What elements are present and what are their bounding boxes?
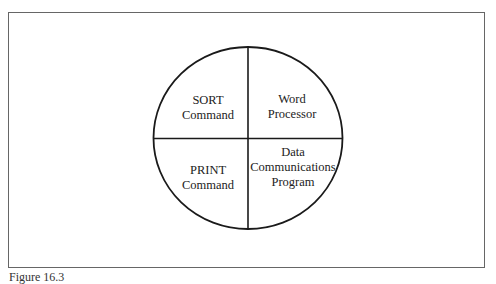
quadrant-print-command: PRINT Command	[176, 163, 240, 193]
quadrant-label-line: Data	[250, 145, 336, 160]
quadrant-label-line: Program	[250, 175, 336, 190]
quadrant-label-line: Command	[176, 178, 240, 193]
quadrant-data-communications-program: Data Communications Program	[250, 145, 336, 190]
quadrant-label-line: Processor	[257, 107, 327, 122]
quadrant-word-processor: Word Processor	[257, 92, 327, 122]
quadrant-label-line: SORT	[176, 93, 240, 108]
quadrant-label-line: PRINT	[176, 163, 240, 178]
figure-caption: Figure 16.3	[9, 270, 64, 284]
quadrant-label-line: Communications	[250, 160, 336, 175]
quadrant-label-line: Word	[257, 92, 327, 107]
quadrant-sort-command: SORT Command	[176, 93, 240, 123]
quadrant-label-line: Command	[176, 108, 240, 123]
